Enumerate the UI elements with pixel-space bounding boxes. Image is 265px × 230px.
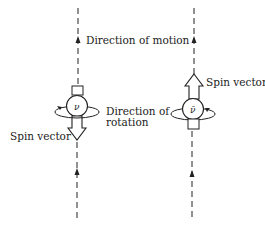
left-small-square — [72, 86, 83, 95]
right-small-square — [188, 119, 199, 129]
neutrino-group: ν Direction of motion Direction of rotat… — [10, 8, 190, 218]
neutrino-symbol: ν — [74, 102, 80, 112]
right-motion-arrow-lower — [190, 170, 195, 177]
left-spin-vector-label: Spin vector — [10, 130, 72, 142]
direction-of-rotation-label-2: rotation — [106, 116, 149, 128]
left-motion-arrow-upper — [76, 36, 81, 43]
direction-of-motion-label: Direction of motion — [86, 34, 190, 46]
right-motion-arrow-upper — [192, 36, 197, 43]
antineutrino-symbol: ν̄ — [190, 105, 196, 115]
right-spin-vector-label: Spin vector — [206, 76, 265, 88]
helicity-diagram: ν Direction of motion Direction of rotat… — [0, 0, 265, 230]
left-motion-arrow-lower — [75, 168, 80, 175]
right-spin-vector-arrow — [185, 74, 203, 99]
